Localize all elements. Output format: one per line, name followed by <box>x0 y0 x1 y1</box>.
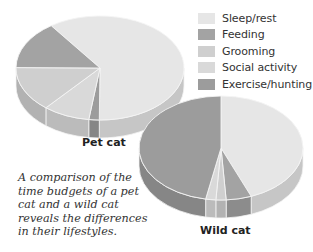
legend-item-grooming: Grooming <box>198 43 312 59</box>
legend-swatch <box>198 79 215 90</box>
legend-swatch <box>198 46 215 57</box>
wild-cat-label: Wild cat <box>200 224 251 237</box>
legend-item-sleep: Sleep/rest <box>198 10 312 26</box>
legend-item-exercise: Exercise/hunting <box>198 76 312 92</box>
legend-item-feeding: Feeding <box>198 27 312 43</box>
legend-label: Social activity <box>222 61 297 74</box>
caption: A comparison of the time budgets of a pe… <box>18 171 148 239</box>
legend-swatch <box>198 13 215 24</box>
legend: Sleep/rest Feeding Grooming Social activ… <box>198 10 312 93</box>
legend-swatch <box>198 29 215 40</box>
legend-label: Exercise/hunting <box>222 78 312 91</box>
legend-label: Sleep/rest <box>222 12 276 25</box>
legend-swatch <box>198 62 215 73</box>
legend-item-social: Social activity <box>198 60 312 76</box>
legend-label: Feeding <box>222 28 265 41</box>
pet-cat-label: Pet cat <box>82 136 126 149</box>
wild-cat-pie <box>139 96 303 218</box>
legend-label: Grooming <box>222 45 275 58</box>
